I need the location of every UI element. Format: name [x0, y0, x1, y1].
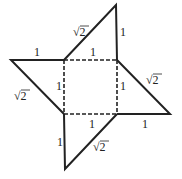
label-right-hyp: √2: [146, 73, 159, 87]
label-square-bottom: 1: [89, 117, 95, 131]
label-square-right: 1: [120, 79, 126, 93]
diagram-svg: √2111√2√211111√2: [0, 0, 182, 179]
label-bottom-leg: 1: [57, 135, 63, 149]
label-left-top-leg: 1: [34, 45, 40, 59]
label-square-top: 1: [90, 45, 96, 59]
label-top-leg: 1: [120, 25, 126, 39]
label-bottom-hyp: √2: [93, 140, 106, 154]
label-square-left: 1: [56, 79, 62, 93]
label-top-hyp: √2: [73, 25, 86, 39]
geometry-diagram: √2111√2√211111√2: [0, 0, 182, 179]
label-right-leg: 1: [142, 117, 148, 131]
label-left-hyp: √2: [14, 89, 27, 103]
